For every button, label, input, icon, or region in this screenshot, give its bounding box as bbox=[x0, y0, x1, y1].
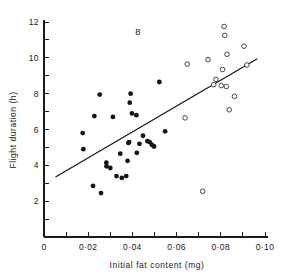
x-tick-label: 0·06 bbox=[167, 242, 186, 252]
y-tick-label: 6 bbox=[34, 125, 39, 135]
data-point-open bbox=[222, 24, 227, 29]
regression-line bbox=[55, 59, 257, 177]
y-tick-labels: 24681012 bbox=[29, 17, 39, 206]
data-point-open bbox=[245, 63, 250, 68]
data-point-filled bbox=[128, 91, 133, 96]
y-tick-label: 4 bbox=[34, 160, 39, 170]
data-point-filled bbox=[152, 144, 157, 149]
x-tick-label: 0 bbox=[41, 242, 46, 252]
data-point-filled bbox=[92, 114, 97, 119]
data-point-filled bbox=[91, 184, 96, 189]
tick-marks bbox=[44, 22, 265, 237]
y-tick-label: 2 bbox=[34, 196, 39, 206]
data-point-filled bbox=[141, 133, 146, 138]
x-axis-title: Initial fat content (mg) bbox=[110, 260, 205, 270]
data-point-filled bbox=[118, 151, 123, 156]
open-data-points bbox=[183, 24, 249, 193]
x-tick-label: 0·10 bbox=[256, 242, 275, 252]
x-tick-label: 0·08 bbox=[211, 242, 230, 252]
scatter-plot-figure: 00·020·040·060·080·10 24681012 Initial f… bbox=[0, 0, 291, 278]
data-point-filled bbox=[81, 147, 86, 152]
data-point-filled bbox=[127, 100, 132, 105]
data-point-filled bbox=[134, 113, 139, 118]
data-point-filled bbox=[137, 141, 142, 146]
data-point-filled bbox=[134, 150, 139, 155]
data-point-filled bbox=[125, 158, 130, 163]
data-point-open bbox=[206, 57, 211, 62]
data-point-open bbox=[211, 82, 216, 87]
data-point-open bbox=[224, 84, 229, 89]
y-tick-label: 10 bbox=[29, 53, 39, 63]
data-point-filled bbox=[124, 174, 129, 179]
data-point-open bbox=[242, 44, 247, 49]
x-tick-label: 0·02 bbox=[79, 242, 98, 252]
data-point-open bbox=[200, 189, 205, 194]
data-point-open bbox=[214, 77, 219, 82]
data-point-open bbox=[220, 67, 225, 72]
figure-number-label: 8 bbox=[135, 26, 140, 37]
data-point-open bbox=[225, 52, 230, 57]
filled-data-points bbox=[80, 80, 167, 196]
axes bbox=[44, 20, 268, 237]
data-point-filled bbox=[80, 131, 85, 136]
data-point-open bbox=[183, 116, 188, 121]
data-point-filled bbox=[119, 175, 124, 180]
data-point-open bbox=[185, 62, 190, 67]
x-tick-labels: 00·020·040·060·080·10 bbox=[41, 242, 274, 252]
data-point-filled bbox=[163, 129, 168, 134]
data-point-filled bbox=[157, 80, 162, 85]
y-axis-title: Flight duration (h) bbox=[8, 91, 18, 168]
data-point-filled bbox=[126, 141, 131, 146]
x-tick-label: 0·04 bbox=[123, 242, 142, 252]
plot-canvas: 00·020·040·060·080·10 24681012 Initial f… bbox=[0, 0, 291, 278]
data-point-open bbox=[227, 107, 232, 112]
data-point-filled bbox=[108, 166, 113, 171]
y-tick-label: 12 bbox=[29, 17, 39, 27]
data-point-open bbox=[232, 94, 237, 99]
regression-line-segment bbox=[55, 59, 257, 177]
data-point-filled bbox=[97, 92, 102, 97]
data-point-open bbox=[219, 83, 224, 88]
data-point-filled bbox=[130, 111, 135, 116]
data-point-filled bbox=[114, 174, 119, 179]
data-point-open bbox=[222, 33, 227, 38]
data-point-filled bbox=[111, 115, 116, 120]
data-point-filled bbox=[99, 191, 104, 196]
y-tick-label: 8 bbox=[34, 89, 39, 99]
